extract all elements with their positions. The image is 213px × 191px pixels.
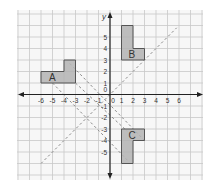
x-tick-label: 3 [143, 97, 147, 104]
origin-label: 0 [103, 86, 107, 93]
y-tick-label: -3 [101, 126, 107, 133]
shape-label: B [128, 49, 135, 60]
x-tick-label: -5 [50, 97, 56, 104]
x-tick-label: 1 [120, 97, 124, 104]
x-tick-label: -2 [84, 97, 90, 104]
origin-x-label: 0 [111, 97, 115, 104]
shape-label: C [128, 130, 135, 141]
shape-label: A [49, 72, 56, 83]
y-tick-label: 2 [103, 68, 107, 75]
x-tick-label: 2 [131, 97, 135, 104]
coordinate-plane-figure: ABC y -6-5-4-3-2-1123456-5-4-3-2-1123450… [0, 0, 213, 191]
x-tick-label: -3 [73, 97, 79, 104]
x-tick-label: 4 [154, 97, 158, 104]
y-tick-label: 3 [103, 57, 107, 64]
y-tick-label: 5 [103, 34, 107, 41]
y-tick-label: -5 [101, 149, 107, 156]
y-tick-label: -4 [101, 137, 107, 144]
y-tick-label: -1 [101, 103, 107, 110]
x-tick-label: 6 [177, 97, 181, 104]
x-tick-label: 5 [166, 97, 170, 104]
y-tick-label: 4 [103, 45, 107, 52]
x-tick-label: -6 [38, 97, 44, 104]
coordinate-plane: ABC y -6-5-4-3-2-1123456-5-4-3-2-1123450… [0, 0, 213, 191]
x-tick-label: -4 [61, 97, 67, 104]
y-tick-label: -2 [101, 114, 107, 121]
